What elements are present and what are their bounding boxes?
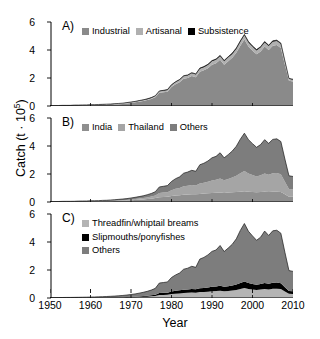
y-axis-label: Catch (t · 105) <box>12 78 28 198</box>
panel-a-y-axis <box>40 22 52 108</box>
y-tick-label: 0 <box>29 197 35 208</box>
legend-swatch-icon <box>82 234 89 241</box>
y-tick-label: 6 <box>29 113 35 124</box>
x-tick-label: 1970 <box>119 299 142 311</box>
legend-swatch-icon <box>82 247 89 254</box>
legend-item: Thailand <box>118 122 164 133</box>
x-axis-tick-labels: 1950196019701980199020002010 <box>50 295 293 309</box>
legend-swatch-icon <box>170 124 177 131</box>
legend-item: Artisanal <box>136 26 182 37</box>
legend-label: Thailand <box>128 122 164 133</box>
y-tick-label: 2 <box>29 265 35 276</box>
legend-label: Others <box>180 122 208 133</box>
x-tick-label: 2010 <box>281 299 304 311</box>
legend-swatch-icon <box>82 28 89 35</box>
panel-c-legend: Threadfin/whiptail breamsSlipmouths/pony… <box>82 218 198 259</box>
x-tick-label: 1960 <box>79 299 102 311</box>
y-tick-label: 0 <box>29 101 35 112</box>
legend-item: Threadfin/whiptail breams <box>82 218 198 229</box>
legend-label: Subsistence <box>198 26 249 37</box>
x-axis: 1950196019701980199020002010 <box>50 289 293 309</box>
x-tick-label: 1980 <box>160 299 183 311</box>
y-tick-label: 0 <box>29 293 35 304</box>
legend-label: Slipmouths/ponyfishes <box>92 232 185 243</box>
y-axis-label-exponent: 5 <box>12 103 22 108</box>
y-axis-label-close: ) <box>14 99 28 103</box>
legend-label: Artisanal <box>146 26 182 37</box>
y-tick-label: 4 <box>29 141 35 152</box>
figure-root: Catch (t · 105) A) 0246 IndustrialArtisa… <box>0 0 320 339</box>
y-tick-label: 6 <box>29 17 35 28</box>
y-axis-label-text: Catch (t · 10 <box>14 108 28 177</box>
panel-c-y-axis <box>40 214 52 300</box>
legend-item: Slipmouths/ponyfishes <box>82 232 185 243</box>
legend-item: India <box>82 122 112 133</box>
y-tick-label: 2 <box>29 169 35 180</box>
legend-item: Others <box>82 245 120 256</box>
legend-item: Subsistence <box>188 26 249 37</box>
panel-b-y-axis <box>40 118 52 204</box>
x-axis-label: Year <box>50 316 300 330</box>
legend-item: Industrial <box>82 26 130 37</box>
panel-b-legend: IndiaThailandOthers <box>82 122 214 134</box>
legend-swatch-icon <box>136 28 143 35</box>
panel-a-legend: IndustrialArtisanalSubsistence <box>82 26 255 38</box>
legend-swatch-icon <box>82 220 89 227</box>
y-tick-label: 4 <box>29 45 35 56</box>
legend-item: Others <box>170 122 208 133</box>
legend-label: Others <box>92 245 120 256</box>
legend-label: Threadfin/whiptail breams <box>92 218 198 229</box>
legend-swatch-icon <box>118 124 125 131</box>
x-tick-label: 2000 <box>241 299 264 311</box>
y-tick-label: 6 <box>29 209 35 220</box>
y-tick-label: 2 <box>29 73 35 84</box>
legend-swatch-icon <box>188 28 195 35</box>
legend-label: Industrial <box>92 26 130 37</box>
y-tick-label: 4 <box>29 237 35 248</box>
legend-label: India <box>92 122 112 133</box>
legend-swatch-icon <box>82 124 89 131</box>
x-tick-label: 1990 <box>200 299 223 311</box>
x-tick-label: 1950 <box>38 299 61 311</box>
